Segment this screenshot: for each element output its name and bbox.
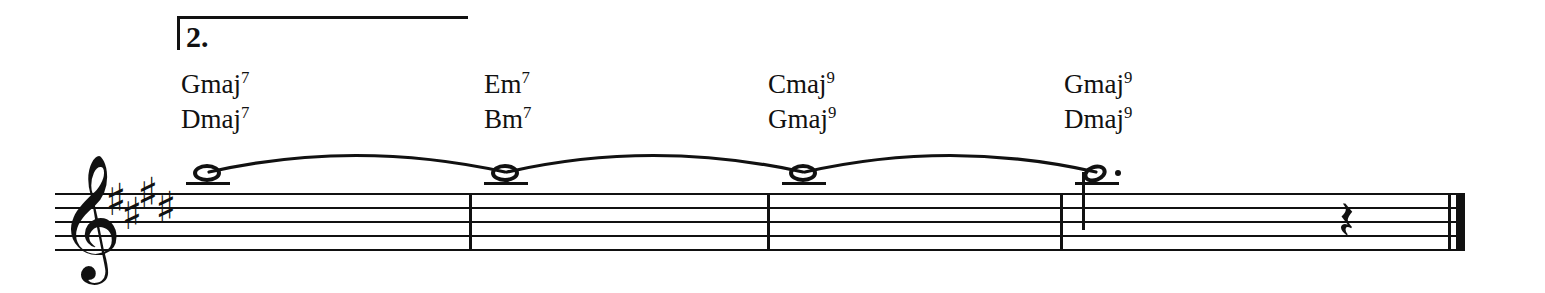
tie-1	[209, 156, 505, 173]
augmentation-dot	[1115, 170, 1121, 176]
chord-symbol-bottom-3: Gmaj9	[768, 106, 836, 133]
chord-symbol-top-1: Gmaj7	[181, 71, 249, 98]
chord-extension: 7	[241, 103, 249, 122]
chord-symbol-bottom-2: Bm7	[484, 106, 531, 133]
chord-symbol-bottom-1: Dmaj7	[181, 106, 249, 133]
chord-root: Cmaj	[768, 69, 827, 99]
chord-root: Gmaj	[768, 104, 828, 134]
ledger-line	[186, 182, 230, 185]
note-2	[491, 158, 521, 186]
key-signature-sharp-4: ♯	[155, 186, 176, 230]
note-stem	[1082, 172, 1085, 230]
chord-symbol-top-3: Cmaj9	[768, 71, 835, 98]
ending-bracket-hook	[177, 16, 180, 50]
staff-line-3	[55, 221, 1465, 223]
chord-symbol-top-2: Em7	[484, 71, 530, 98]
chord-root: Dmaj	[1064, 104, 1124, 134]
chord-root: Gmaj	[1064, 69, 1124, 99]
note-4	[1082, 158, 1112, 186]
whole-notehead	[491, 164, 519, 182]
note-1	[193, 158, 223, 186]
staff-line-4	[55, 235, 1465, 237]
final-barline-thin	[1448, 193, 1451, 251]
ledger-line	[782, 182, 826, 185]
ending-number-label: 2.	[186, 22, 209, 52]
tie-2	[507, 156, 803, 173]
final-barline-thick	[1456, 193, 1465, 251]
chord-extension: 9	[827, 68, 835, 87]
quarter-rest: 𝄽	[1338, 194, 1355, 248]
barline-3	[1060, 193, 1063, 251]
chord-extension: 9	[1124, 103, 1132, 122]
ending-bracket-line	[177, 16, 468, 19]
second-ending-bracket	[177, 16, 468, 50]
staff-line-5	[55, 249, 1465, 251]
tie-3	[805, 156, 1096, 173]
chord-root: Em	[484, 69, 522, 99]
chord-extension: 7	[522, 68, 530, 87]
whole-notehead	[789, 164, 817, 182]
staff-line-2	[55, 207, 1465, 209]
chord-symbol-bottom-4: Dmaj9	[1064, 106, 1132, 133]
chord-root: Gmaj	[181, 69, 241, 99]
chord-extension: 7	[523, 103, 531, 122]
note-3	[789, 158, 819, 186]
chord-extension: 9	[1124, 68, 1132, 87]
whole-notehead	[193, 164, 221, 182]
barline-2	[767, 193, 770, 251]
chord-root: Bm	[484, 104, 523, 134]
barline-1	[469, 193, 472, 251]
chord-extension: 9	[828, 103, 836, 122]
staff-line-1	[55, 193, 1465, 195]
staff	[55, 193, 1465, 251]
ledger-line	[484, 182, 528, 185]
music-score-sheet: 2. Gmaj7 Em7 Cmaj9 Gmaj9 Dmaj7 Bm7 Gmaj9…	[0, 0, 1545, 293]
chord-root: Dmaj	[181, 104, 241, 134]
chord-extension: 7	[241, 68, 249, 87]
chord-symbol-top-4: Gmaj9	[1064, 71, 1132, 98]
